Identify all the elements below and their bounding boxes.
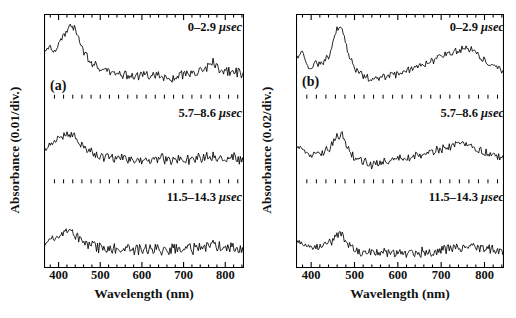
time-unit: μsec (219, 190, 242, 204)
spectrum-trace (44, 132, 244, 165)
panel-b-time-label-2: 11.5–14.3 μsec (429, 190, 504, 205)
panel-b-tag: (b) (302, 74, 319, 90)
x-tick-label: 400 (302, 268, 321, 283)
x-tick-label: 600 (133, 268, 152, 283)
panel-b-time-label-1: 5.7–8.6 μsec (440, 106, 504, 121)
x-tick-label: 700 (432, 268, 451, 283)
time-range: 5.7–8.6 (440, 106, 481, 120)
time-unit: μsec (481, 190, 504, 204)
panel-b-time-label-0: 0–2.9 μsec (450, 20, 504, 35)
panel-a-x-tick-labels: 400500600700800 (44, 268, 244, 284)
time-unit: μsec (219, 20, 242, 34)
x-tick-label: 800 (475, 268, 494, 283)
spectrum-trace (296, 231, 504, 257)
figure-root: Absorbance (0.01/div.) 400500600700800 W… (0, 0, 516, 318)
panel-a-plot (44, 14, 244, 268)
x-tick-label: 700 (174, 268, 193, 283)
time-range: 0–2.9 (188, 20, 219, 34)
panel-a-x-axis-label: Wavelength (nm) (44, 286, 244, 302)
panel-a-y-axis-label: Absorbance (0.01/div.) (2, 0, 28, 300)
panel-b-plot (296, 14, 504, 268)
panel-a-tag: (a) (50, 78, 66, 94)
time-range: 11.5–14.3 (429, 190, 481, 204)
panel-a-time-label-2: 11.5–14.3 μsec (167, 190, 242, 205)
panel-b-x-axis-label: Wavelength (nm) (296, 286, 504, 302)
time-range: 0–2.9 (450, 20, 481, 34)
panel-a-time-label-0: 0–2.9 μsec (188, 20, 242, 35)
x-tick-label: 500 (345, 268, 364, 283)
panel-b-y-axis-label: Absorbance (0.02/div.) (254, 0, 280, 300)
time-unit: μsec (481, 106, 504, 120)
x-tick-label: 800 (216, 268, 235, 283)
panel-b-x-tick-labels: 400500600700800 (296, 268, 504, 284)
time-unit: μsec (481, 20, 504, 34)
spectrum-trace (44, 229, 244, 256)
panel-b: Absorbance (0.02/div.) 400500600700800 W… (252, 0, 516, 318)
time-range: 5.7–8.6 (178, 106, 219, 120)
time-range: 11.5–14.3 (167, 190, 219, 204)
x-tick-label: 500 (91, 268, 110, 283)
panel-a: Absorbance (0.01/div.) 400500600700800 W… (0, 0, 252, 318)
x-tick-label: 600 (388, 268, 407, 283)
spectrum-trace (296, 132, 504, 169)
x-tick-label: 400 (49, 268, 68, 283)
panel-a-time-label-1: 5.7–8.6 μsec (178, 106, 242, 121)
time-unit: μsec (219, 106, 242, 120)
